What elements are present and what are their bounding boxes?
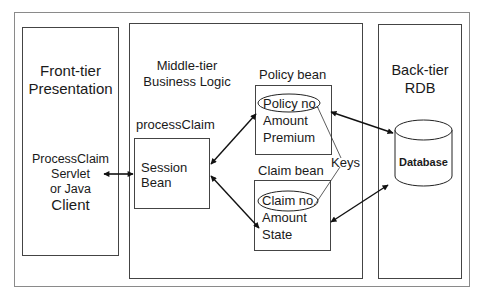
session-policy-arrow [211, 114, 256, 164]
claim-key-ellipse [258, 191, 318, 211]
database-icon [395, 120, 452, 186]
policy-key-ellipse [258, 94, 320, 112]
keys-line-policy [318, 108, 341, 158]
session-claim-arrow [211, 176, 259, 228]
policy-database-arrow [331, 112, 393, 133]
database-label: Database [395, 157, 452, 168]
connector-overlay [0, 0, 483, 298]
keys-line-claim [316, 167, 340, 203]
claim-database-arrow [331, 185, 388, 222]
